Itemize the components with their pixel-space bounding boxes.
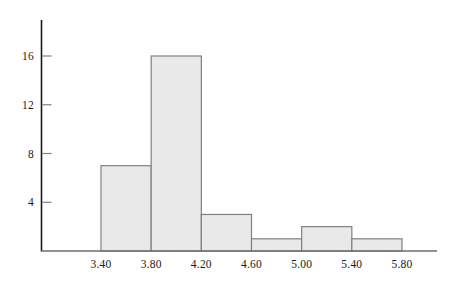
x-axis-tick-label: 5.40 (341, 258, 362, 270)
x-axis-tick-label: 3.80 (141, 258, 162, 270)
x-axis-tick-label: 5.80 (392, 258, 413, 270)
x-axis-tick-label: 5.00 (291, 258, 312, 270)
y-axis-ticks (43, 56, 52, 202)
histogram-bar (151, 56, 201, 251)
y-axis-tick-label: 12 (8, 99, 34, 111)
histogram-bar (201, 214, 251, 251)
y-axis-tick-label: 4 (8, 196, 34, 208)
y-axis-tick-label: 16 (8, 50, 34, 62)
histogram-bar (352, 239, 402, 251)
histogram-bars (101, 56, 402, 251)
x-axis-tick-label: 4.60 (241, 258, 262, 270)
x-axis-tick-label: 4.20 (191, 258, 212, 270)
x-axis-tick-label: 3.40 (91, 258, 112, 270)
histogram-plot-area (0, 0, 453, 285)
histogram-bar (252, 239, 302, 251)
histogram-bar (101, 166, 151, 251)
histogram-figure: 481216 3.403.804.204.605.005.405.80 (0, 0, 453, 285)
histogram-bar (302, 227, 352, 251)
y-axis-tick-label: 8 (8, 148, 34, 160)
